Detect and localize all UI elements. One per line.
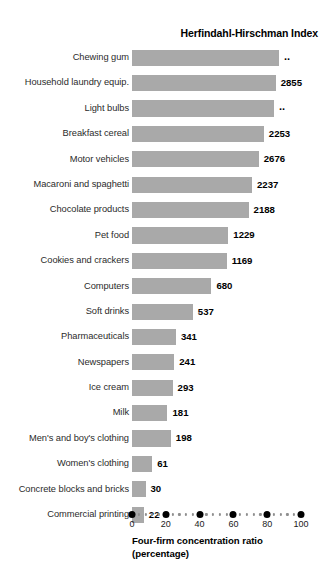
bar-row: Macaroni and spaghetti2237 xyxy=(0,172,331,197)
axis-minor-dot xyxy=(205,513,207,515)
bar-row: Household laundry equip.2855 xyxy=(0,70,331,95)
bar-fill xyxy=(132,202,249,218)
bar-value-label: 1169 xyxy=(232,253,253,269)
bar-track: 341 xyxy=(132,329,301,345)
bar-fill xyxy=(132,304,193,320)
bar-row: Newspapers241 xyxy=(0,350,331,375)
bar-row: Pet food1229 xyxy=(0,223,331,248)
axis-minor-dot xyxy=(253,513,255,515)
bar-value-label: 680 xyxy=(216,278,232,294)
bar-row-label: Milk xyxy=(113,400,129,425)
bar-row-label: Newspapers xyxy=(78,350,129,375)
axis-minor-dot xyxy=(293,513,295,515)
axis-minor-dot xyxy=(212,513,214,515)
bar-fill xyxy=(132,430,171,446)
bar-track: 181 xyxy=(132,405,301,421)
bar-value-label: 2188 xyxy=(254,202,275,218)
bar-value-label: 2237 xyxy=(257,177,278,193)
bar-fill xyxy=(132,278,211,294)
bar-track: 61 xyxy=(132,456,301,472)
bar-value-label: 30 xyxy=(151,481,162,497)
bar-row: Women's clothing61 xyxy=(0,451,331,476)
bar-track: 198 xyxy=(132,430,301,446)
bar-fill xyxy=(132,380,173,396)
bar-row: Chocolate products2188 xyxy=(0,197,331,222)
axis-tick-label: 60 xyxy=(228,519,238,529)
axis-tick-dot xyxy=(230,511,237,518)
bar-row-label: Women's clothing xyxy=(57,451,129,476)
bar-fill xyxy=(132,177,252,193)
bar-row-label: Household laundry equip. xyxy=(25,70,129,95)
bar-row: Computers680 xyxy=(0,274,331,299)
bar-value-label: .. xyxy=(279,100,285,116)
bar-row-label: Chewing gum xyxy=(73,45,129,70)
bar-row-label: Pharmaceuticals xyxy=(61,324,129,349)
bar-value-label: .. xyxy=(284,50,290,66)
axis-tick-dot xyxy=(298,511,305,518)
axis-tick-label: 80 xyxy=(262,519,272,529)
bar-row-label: Computers xyxy=(84,274,129,299)
bar-row-label: Motor vehicles xyxy=(70,147,129,172)
x-axis-caption: Four-firm concentration ratio (percentag… xyxy=(132,535,263,560)
bar-track: 680 xyxy=(132,278,301,294)
bar-track: 2237 xyxy=(132,177,301,193)
bar-row-label: Concrete blocks and bricks xyxy=(19,477,129,502)
axis-minor-dot xyxy=(246,513,248,515)
bar-fill xyxy=(132,354,174,370)
bar-value-label: 537 xyxy=(198,304,214,320)
concentration-chart: Herfindahl-Hirschman Index Chewing gum..… xyxy=(0,0,331,578)
bar-fill xyxy=(132,100,274,116)
bar-track: .. xyxy=(132,50,301,66)
bar-row-label: Cookies and crackers xyxy=(41,248,129,273)
bar-value-label: 181 xyxy=(172,405,188,421)
axis-tick-label: 20 xyxy=(161,519,171,529)
bar-row-label: Men's and boy's clothing xyxy=(29,426,129,451)
axis-minor-dot xyxy=(178,513,180,515)
axis-minor-dot xyxy=(192,513,194,515)
bar-track: 241 xyxy=(132,354,301,370)
axis-tick-dot xyxy=(264,511,271,518)
bar-track: 2676 xyxy=(132,151,301,167)
axis-minor-dot xyxy=(171,513,173,515)
bar-track: 30 xyxy=(132,481,301,497)
bar-row-label: Light bulbs xyxy=(85,96,129,121)
axis-tick-dot xyxy=(196,511,203,518)
bar-fill xyxy=(132,151,259,167)
bar-value-label: 2676 xyxy=(264,151,285,167)
bar-value-label: 61 xyxy=(157,456,168,472)
axis-minor-dot xyxy=(280,513,282,515)
bar-value-label: 241 xyxy=(179,354,195,370)
bar-value-label: 293 xyxy=(178,380,194,396)
bar-track: 537 xyxy=(132,304,301,320)
bar-track: 2253 xyxy=(132,126,301,142)
axis-line xyxy=(132,511,301,518)
bar-value-label: 2855 xyxy=(281,75,302,91)
axis-tick-dot xyxy=(162,511,169,518)
axis-minor-dot xyxy=(158,513,160,515)
bar-track: 1229 xyxy=(132,227,301,243)
axis-minor-dot xyxy=(226,513,228,515)
x-axis: Four-firm concentration ratio (percentag… xyxy=(0,505,331,578)
bar-track: 1169 xyxy=(132,253,301,269)
axis-minor-dot xyxy=(239,513,241,515)
bar-row-label: Ice cream xyxy=(89,375,129,400)
bar-fill xyxy=(132,50,279,66)
axis-minor-dot xyxy=(219,513,221,515)
bar-rows-container: Chewing gum..Household laundry equip.285… xyxy=(0,45,331,527)
axis-minor-dot xyxy=(151,513,153,515)
bar-track: 2188 xyxy=(132,202,301,218)
bar-track: 2855 xyxy=(132,75,301,91)
bar-fill xyxy=(132,405,167,421)
bar-fill xyxy=(132,329,176,345)
bar-fill xyxy=(132,126,264,142)
bar-row: Breakfast cereal2253 xyxy=(0,121,331,146)
axis-tick-label: 40 xyxy=(195,519,205,529)
bar-value-label: 198 xyxy=(176,430,192,446)
axis-minor-dot xyxy=(138,513,140,515)
axis-minor-dot xyxy=(273,513,275,515)
bar-row: Soft drinks537 xyxy=(0,299,331,324)
bar-value-label: 2253 xyxy=(269,126,290,142)
bar-fill xyxy=(132,227,228,243)
x-axis-caption-line-1: Four-firm concentration ratio xyxy=(132,535,263,548)
axis-tick-dot xyxy=(129,511,136,518)
